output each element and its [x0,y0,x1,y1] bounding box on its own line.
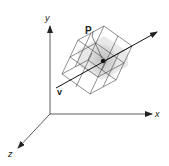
point-marker [101,59,105,63]
vector-v-label: v [57,87,62,97]
voxel-box [62,26,132,94]
point-label-subscript: i [92,30,94,37]
diagram-canvas: y x z v Pi [0,0,169,166]
y-axis-label: y [44,13,50,23]
z-axis-label: z [7,149,13,159]
point-label: Pi [85,25,94,37]
x-axis-label: x [154,109,160,119]
z-axis [18,114,50,148]
coordinate-axes [18,26,152,148]
